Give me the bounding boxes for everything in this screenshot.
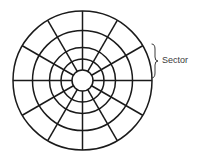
sector-label: Sector <box>162 55 188 66</box>
curly-brace-icon <box>152 44 158 78</box>
track-ring-1 <box>72 70 93 91</box>
disk-sector-diagram <box>0 0 197 157</box>
